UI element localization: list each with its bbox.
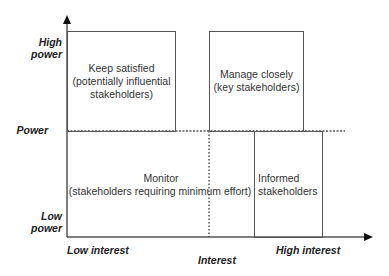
low-power-label: Low power [10,210,62,234]
keep-satisfied-text: Keep satisfied (potentially influential … [67,62,176,101]
high-power-label: High power [10,36,62,60]
manage-closely-text: Manage closely (key stakeholders) [209,68,304,94]
y-axis-arrow-icon [63,15,71,24]
high-interest-label: High interest [276,244,340,256]
x-axis-arrow-icon [364,233,373,241]
low-interest-label: Low interest [67,244,129,256]
power-axis-title: Power [10,124,48,136]
monitor-text: Monitor (stakeholders requiring minimum … [67,172,255,198]
informed-text: Informed stakeholders [258,172,322,198]
interest-axis-title: Interest [198,254,236,266]
